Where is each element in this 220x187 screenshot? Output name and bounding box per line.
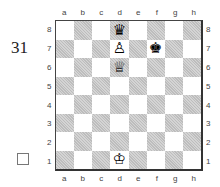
square-d6[interactable]: ♕ — [110, 58, 128, 77]
rank-label-2: 2 — [47, 138, 51, 147]
square-h8[interactable] — [183, 21, 201, 40]
white-queen-icon[interactable]: ♕ — [113, 60, 126, 75]
black-king-icon[interactable]: ♚ — [149, 41, 162, 56]
square-b4[interactable] — [74, 95, 92, 114]
square-e3[interactable] — [129, 114, 147, 133]
square-d8[interactable]: ♛ — [110, 21, 128, 40]
square-c6[interactable] — [92, 58, 110, 77]
square-g4[interactable] — [165, 95, 183, 114]
file-label-g: g — [166, 8, 185, 17]
square-b5[interactable] — [74, 77, 92, 96]
square-h6[interactable] — [183, 58, 201, 77]
rank-label-6: 6 — [206, 63, 210, 72]
square-c3[interactable] — [92, 114, 110, 133]
file-label-d: d — [111, 174, 130, 183]
white-pawn-icon[interactable]: ♙ — [113, 41, 126, 56]
square-b6[interactable] — [74, 58, 92, 77]
rank-label-5: 5 — [206, 82, 210, 91]
square-a1[interactable] — [56, 151, 74, 170]
white-king-icon[interactable]: ♔ — [113, 152, 126, 167]
square-e2[interactable] — [129, 132, 147, 151]
square-c1[interactable] — [92, 151, 110, 170]
square-e6[interactable] — [129, 58, 147, 77]
square-d2[interactable] — [110, 132, 128, 151]
square-f4[interactable] — [147, 95, 165, 114]
square-f3[interactable] — [147, 114, 165, 133]
square-h3[interactable] — [183, 114, 201, 133]
square-c5[interactable] — [92, 77, 110, 96]
square-d7[interactable]: ♙ — [110, 40, 128, 59]
square-a4[interactable] — [56, 95, 74, 114]
square-b2[interactable] — [74, 132, 92, 151]
square-b8[interactable] — [74, 21, 92, 40]
rank-label-5: 5 — [47, 82, 51, 91]
square-g5[interactable] — [165, 77, 183, 96]
file-label-h: h — [185, 8, 204, 17]
square-h7[interactable] — [183, 40, 201, 59]
square-g7[interactable] — [165, 40, 183, 59]
rank-label-6: 6 — [47, 63, 51, 72]
square-g6[interactable] — [165, 58, 183, 77]
square-d4[interactable] — [110, 95, 128, 114]
rank-label-3: 3 — [206, 119, 210, 128]
rank-label-7: 7 — [206, 44, 210, 53]
square-g1[interactable] — [165, 151, 183, 170]
square-f8[interactable] — [147, 21, 165, 40]
rank-label-4: 4 — [206, 101, 210, 110]
square-a8[interactable] — [56, 21, 74, 40]
square-h1[interactable] — [183, 151, 201, 170]
square-e8[interactable] — [129, 21, 147, 40]
square-g8[interactable] — [165, 21, 183, 40]
square-b3[interactable] — [74, 114, 92, 133]
square-b7[interactable] — [74, 40, 92, 59]
square-a6[interactable] — [56, 58, 74, 77]
chess-board: ♛♙♚♕♔ — [55, 20, 203, 171]
rank-label-2: 2 — [206, 138, 210, 147]
square-f6[interactable] — [147, 58, 165, 77]
square-f5[interactable] — [147, 77, 165, 96]
puzzle-number: 31 — [11, 38, 28, 58]
square-d3[interactable] — [110, 114, 128, 133]
square-c8[interactable] — [92, 21, 110, 40]
square-a5[interactable] — [56, 77, 74, 96]
square-c7[interactable] — [92, 40, 110, 59]
file-label-f: f — [148, 8, 167, 17]
rank-label-8: 8 — [206, 25, 210, 34]
square-e7[interactable] — [129, 40, 147, 59]
rank-label-8: 8 — [47, 25, 51, 34]
square-b1[interactable] — [74, 151, 92, 170]
file-label-a: a — [55, 174, 74, 183]
square-f7[interactable]: ♚ — [147, 40, 165, 59]
square-a2[interactable] — [56, 132, 74, 151]
file-label-e: e — [129, 8, 148, 17]
square-a7[interactable] — [56, 40, 74, 59]
rank-label-1: 1 — [47, 157, 51, 166]
square-e4[interactable] — [129, 95, 147, 114]
square-e1[interactable] — [129, 151, 147, 170]
black-queen-icon[interactable]: ♛ — [113, 23, 126, 38]
square-g3[interactable] — [165, 114, 183, 133]
square-f2[interactable] — [147, 132, 165, 151]
rank-label-7: 7 — [47, 44, 51, 53]
rank-label-1: 1 — [206, 157, 210, 166]
square-a3[interactable] — [56, 114, 74, 133]
file-label-g: g — [166, 174, 185, 183]
file-label-e: e — [129, 174, 148, 183]
file-label-b: b — [74, 174, 93, 183]
square-c2[interactable] — [92, 132, 110, 151]
square-h4[interactable] — [183, 95, 201, 114]
file-label-f: f — [148, 174, 167, 183]
square-e5[interactable] — [129, 77, 147, 96]
square-c4[interactable] — [92, 95, 110, 114]
square-f1[interactable] — [147, 151, 165, 170]
square-d1[interactable]: ♔ — [110, 151, 128, 170]
square-h5[interactable] — [183, 77, 201, 96]
solved-checkbox[interactable] — [17, 153, 29, 165]
rank-label-3: 3 — [47, 119, 51, 128]
file-label-b: b — [74, 8, 93, 17]
file-label-d: d — [111, 8, 130, 17]
square-d5[interactable] — [110, 77, 128, 96]
square-g2[interactable] — [165, 132, 183, 151]
square-h2[interactable] — [183, 132, 201, 151]
file-label-h: h — [185, 174, 204, 183]
